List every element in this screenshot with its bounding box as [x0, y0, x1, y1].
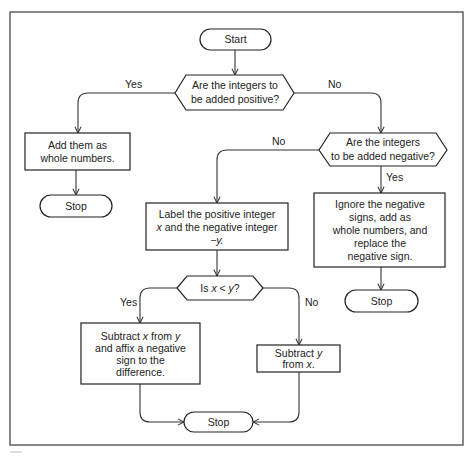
process-label-line3: −y.	[210, 234, 224, 246]
decision-compare-yes-label: Yes	[120, 296, 137, 308]
process-subtract-x-from-y: Subtract x from y and affix a negative s…	[81, 323, 200, 384]
decision-compare-no-label: No	[305, 296, 319, 308]
stop3-label: Stop	[208, 416, 230, 428]
connector-decision1-yes	[78, 93, 175, 133]
stop-terminator-2: Stop	[345, 290, 418, 312]
process-label-integers: Label the positive integer x and the neg…	[146, 203, 288, 250]
process-negatives-line2: signs, add as	[349, 211, 411, 223]
decision-compare-post: ?	[234, 282, 240, 294]
process-add-negatives: Ignore the negative signs, add as whole …	[314, 193, 445, 267]
process-subx-line4: difference.	[116, 366, 165, 378]
less-than-operator: <	[217, 282, 229, 294]
suby-line2-post: .	[312, 358, 315, 370]
process-negatives-line5: negative sign.	[348, 250, 413, 262]
process-subx-line1: Subtract x from y	[101, 330, 181, 342]
process-negatives-line1: Ignore the negative	[335, 198, 425, 210]
connector-decision1-no	[294, 93, 381, 133]
process-label-line2-rest: and the negative integer	[162, 221, 278, 233]
process-add-line2: whole numbers.	[39, 152, 114, 164]
connector-subx-to-stop3	[140, 384, 184, 422]
stop2-label: Stop	[371, 295, 393, 307]
decision-positive-line1: Are the integers to	[192, 79, 278, 91]
connector-decision3-yes	[140, 288, 177, 323]
stop-terminator-3: Stop	[184, 412, 253, 432]
process-negatives-line3: whole numbers, and	[332, 224, 428, 236]
start-terminator: Start	[200, 29, 271, 50]
decision-x-less-than-y: Is x < y?	[177, 276, 263, 300]
decision-positive-no-label: No	[328, 78, 342, 90]
process-add-whole-numbers: Add them as whole numbers.	[25, 133, 130, 170]
process-label-line1: Label the positive integer	[159, 208, 276, 220]
suby-line2-pre: from	[282, 358, 306, 370]
process-add-line1: Add them as	[48, 139, 107, 151]
decision-negative-no-label: No	[272, 135, 286, 147]
decision-positive: Are the integers to be added positive?	[175, 75, 294, 110]
process-subx-line3: sign to the	[116, 354, 165, 366]
connector-decision2-no	[217, 150, 319, 203]
connector-decision3-no	[263, 288, 299, 345]
stop1-label: Stop	[65, 200, 87, 212]
decision-negative-line1: Are the integers	[346, 136, 420, 148]
process-subtract-y-from-x: Subtract y from x.	[257, 345, 340, 372]
stop-terminator-1: Stop	[40, 195, 112, 217]
var-y: y	[316, 347, 323, 359]
decision-negative-line2: to be added negative?	[331, 150, 435, 162]
flowchart-canvas: Start Are the integers to be added posit…	[0, 0, 469, 457]
subx-mid: from	[148, 330, 175, 342]
start-label: Start	[224, 33, 246, 45]
var-y: y	[174, 330, 181, 342]
decision-compare-pre: Is	[200, 282, 211, 294]
process-negatives-line4: replace the	[354, 237, 406, 249]
decision-compare-text: Is x < y?	[200, 282, 240, 294]
subx-pre: Subtract	[101, 330, 143, 342]
decision-positive-yes-label: Yes	[125, 78, 142, 90]
process-subx-line2: and affix a negative	[95, 342, 186, 354]
decision-negative-yes-label: Yes	[386, 171, 403, 183]
process-label-line2: x and the negative integer	[156, 221, 278, 233]
process-suby-line2: from x.	[282, 358, 314, 370]
decision-negative: Are the integers to be added negative?	[319, 133, 447, 166]
connector-suby-to-stop3	[253, 372, 299, 422]
decision-positive-line2: be added positive?	[191, 93, 279, 105]
